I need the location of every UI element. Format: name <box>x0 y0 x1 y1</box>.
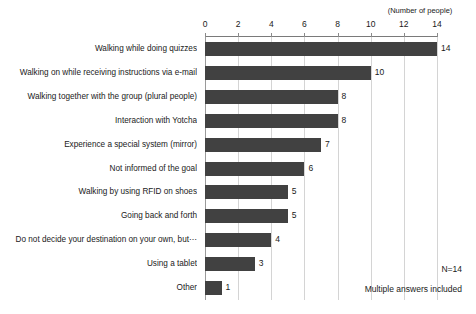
bar-row: 4 <box>205 228 437 252</box>
category-label: Walking while doing quizzes <box>0 37 197 61</box>
bar-row: 8 <box>205 109 437 133</box>
x-tick-label: 10 <box>366 18 375 30</box>
bar <box>205 138 321 152</box>
bar <box>205 114 338 128</box>
category-label: Using a tablet <box>0 252 197 276</box>
x-tick-label: 2 <box>236 18 241 30</box>
bar-row: 6 <box>205 157 437 181</box>
bar <box>205 209 288 223</box>
bar-row: 5 <box>205 180 437 204</box>
gridline <box>437 37 438 300</box>
category-label: Walking on while receiving instructions … <box>0 61 197 85</box>
x-tick-label: 0 <box>203 18 208 30</box>
bar-row: 3 <box>205 252 437 276</box>
bar <box>205 185 288 199</box>
bar-value-label: 7 <box>325 136 330 153</box>
bar-value-label: 5 <box>292 207 297 224</box>
bars-layer: 1410887655431 <box>205 37 437 300</box>
bar-value-label: 8 <box>342 88 347 105</box>
category-label: Walking together with the group (plural … <box>0 85 197 109</box>
bar <box>205 90 338 104</box>
bar <box>205 42 437 56</box>
x-axis-tick-labels: 02468101214 <box>0 18 476 30</box>
bar-row: 8 <box>205 85 437 109</box>
x-tickmark <box>437 33 438 37</box>
bar <box>205 233 271 247</box>
axis-unit-caption: (Number of people) <box>368 6 472 16</box>
bar-value-label: 8 <box>342 112 347 129</box>
category-label: Do not decide your destination on your o… <box>0 228 197 252</box>
category-axis-labels: Walking while doing quizzesWalking on wh… <box>0 37 201 300</box>
category-label: Walking by using RFID on shoes <box>0 180 197 204</box>
bar-value-label: 4 <box>275 231 280 248</box>
bar-value-label: 6 <box>308 160 313 177</box>
bar <box>205 66 371 80</box>
category-label: Not informed of the goal <box>0 157 197 181</box>
sample-size-note: N=14 <box>441 263 462 275</box>
category-label: Interaction with Yotcha <box>0 109 197 133</box>
bar <box>205 281 222 295</box>
x-tick-label: 6 <box>302 18 307 30</box>
bar-value-label: 3 <box>259 255 264 272</box>
bar <box>205 257 255 271</box>
bar-chart: (Number of people) 02468101214 Walking w… <box>0 0 476 314</box>
bar-row: 14 <box>205 37 437 61</box>
x-tick-label: 14 <box>432 18 441 30</box>
bar-value-label: 10 <box>375 64 384 81</box>
category-label: Going back and forth <box>0 204 197 228</box>
category-label: Experience a special system (mirror) <box>0 133 197 157</box>
bar-row: 10 <box>205 61 437 85</box>
bar-row: 5 <box>205 204 437 228</box>
bar <box>205 162 304 176</box>
x-tick-label: 12 <box>399 18 408 30</box>
bar-value-label: 5 <box>292 183 297 200</box>
x-tick-label: 4 <box>269 18 274 30</box>
multiple-answers-note: Multiple answers included <box>365 283 462 295</box>
category-label: Other <box>0 276 197 300</box>
x-tick-label: 8 <box>335 18 340 30</box>
bar-value-label: 14 <box>441 40 450 57</box>
bar-value-label: 1 <box>226 279 231 296</box>
bar-row: 7 <box>205 133 437 157</box>
